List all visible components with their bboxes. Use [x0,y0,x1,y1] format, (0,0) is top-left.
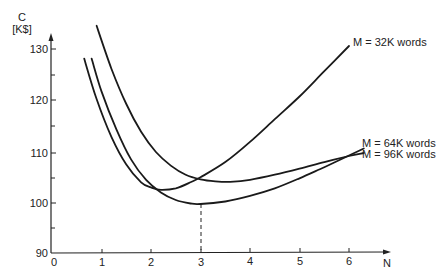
curves [84,26,364,204]
y-tick-label-110: 110 [30,147,48,159]
x-tick-label-5: 5 [297,255,303,267]
x-tick-label-4: 4 [247,255,253,267]
y-axis-arrow-icon [49,33,54,41]
series-label-32k: M = 32K words [353,36,427,48]
x-tick-label-2: 2 [148,256,154,268]
y-tick-label-100: 100 [30,197,48,209]
x-tick-label-3: 3 [198,256,204,268]
y-tick-label-90: 90 [36,247,48,259]
x-tick-label-0: 0 [51,256,57,268]
cost-vs-n-chart: C [K$] 90 100 110 120 130 [0,0,437,277]
y-tick-label-130: 130 [30,43,48,55]
x-axis [51,252,386,253]
x-axis-title: N [383,257,391,269]
x-tick-label-6: 6 [346,255,352,267]
x-axis-arrow-icon [383,250,391,255]
curve-m-32k [84,46,349,190]
y-ticks [51,49,56,228]
y-axis-title-c: C [18,11,26,23]
x-tick-label-1: 1 [99,256,105,268]
series-label-96k: M = 96K words [362,148,436,160]
y-axis-title-unit: [K$] [12,23,32,35]
y-tick-label-120: 120 [30,94,48,106]
